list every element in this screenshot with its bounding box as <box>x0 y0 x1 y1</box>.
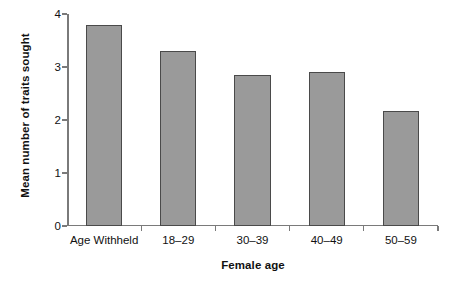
x-tick-label-30-39: 30–39 <box>237 234 269 246</box>
plot-area: 0 1 2 3 4 Age Withheld 18–2 <box>67 14 438 226</box>
x-tick-label-40-49: 40–49 <box>311 234 343 246</box>
bar-30-39 <box>234 75 270 226</box>
x-axis-title: Female age <box>67 259 439 271</box>
y-tick-label: 2 <box>55 114 61 126</box>
y-tick-mark <box>62 119 67 120</box>
y-tick-mark <box>62 66 67 67</box>
x-tick-mark <box>289 226 290 231</box>
y-tick-label: 4 <box>55 8 61 20</box>
y-tick-mark <box>62 172 67 173</box>
y-axis-title: Mean number of traits sought <box>14 0 36 231</box>
bar-18-29 <box>160 51 196 226</box>
y-tick-label: 0 <box>55 220 61 232</box>
y-axis-line <box>67 14 69 226</box>
x-tick-label-age-withheld: Age Withheld <box>70 234 138 246</box>
x-tick-mark <box>141 226 142 231</box>
y-tick-mark <box>62 225 67 226</box>
x-tick-mark <box>363 226 364 231</box>
x-tick-label-50-59: 50–59 <box>385 234 417 246</box>
bar-50-59 <box>383 111 419 226</box>
y-tick-label: 3 <box>55 61 61 73</box>
x-tick-mark <box>215 226 216 231</box>
x-tick-mark <box>437 226 438 231</box>
x-tick-label-18-29: 18–29 <box>162 234 194 246</box>
bar-chart-figure: Mean number of traits sought 0 1 2 3 4 <box>0 0 456 291</box>
bar-40-49 <box>309 72 345 226</box>
y-tick-label: 1 <box>55 167 61 179</box>
bar-age-withheld <box>86 25 122 226</box>
y-tick-mark <box>62 13 67 14</box>
